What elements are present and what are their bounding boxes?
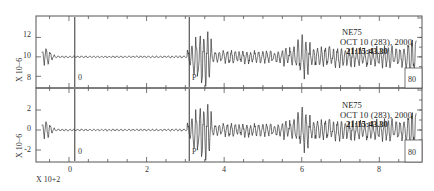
top-origin-label: 0 xyxy=(78,73,82,82)
bottom-ytick-minus2: -2 xyxy=(24,145,31,154)
top-ytick-12: 12 xyxy=(23,30,31,39)
bottom-origin-label: 0 xyxy=(78,147,82,156)
top-p-label: P xyxy=(192,73,197,82)
top-ytick-8: 8 xyxy=(27,73,31,82)
top-time-label: 21:15:43.30 xyxy=(346,46,388,56)
xtick-0: 0 xyxy=(68,165,72,174)
bottom-ytick-0: 0 xyxy=(27,124,31,133)
top-y-multiplier: X 10−6 xyxy=(15,58,24,82)
bottom-ytick-2: 2 xyxy=(27,104,31,113)
top-end-label: 80 xyxy=(408,75,416,84)
bottom-end-label: 80 xyxy=(408,148,416,157)
xtick-4: 4 xyxy=(222,165,226,174)
top-ytick-10: 10 xyxy=(23,51,31,60)
bottom-y-multiplier: X 10−6 xyxy=(15,134,24,158)
bottom-p-label: P xyxy=(192,147,197,156)
seismogram-chart: 12 10 8 2 0 -2 X 10−6 X 10−6 0 2 4 6 8 X… xyxy=(0,0,434,191)
top-station-label: NE75 xyxy=(342,27,362,37)
bottom-time-label: 21:15:43.30 xyxy=(346,119,388,129)
bottom-station-label: NE75 xyxy=(342,100,362,110)
phase-markers xyxy=(75,17,189,161)
xtick-2: 2 xyxy=(145,165,149,174)
x-multiplier: X 10+2 xyxy=(36,175,60,184)
xtick-6: 6 xyxy=(300,165,304,174)
xtick-8: 8 xyxy=(377,165,381,174)
